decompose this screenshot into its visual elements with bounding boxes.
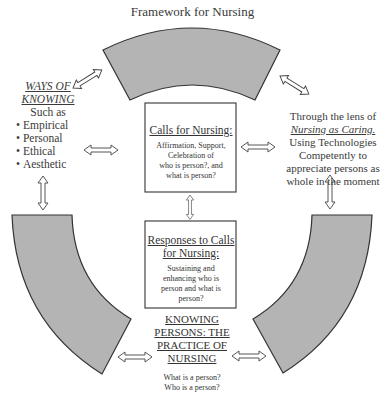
responses-body-line: person and what is [146,284,236,294]
responses-text: Responses to Calls for Nursing: Sustaini… [146,234,236,304]
calls-title: Calls for Nursing: [146,124,236,137]
knowing-persons-heading: KNOWING PERSONS: THE PRACTICE OF NURSING [140,313,244,365]
arrow-wok-to-left-arc-icon [38,176,48,210]
knowing-persons-line: NURSING [140,352,244,365]
left-arc-segment [12,215,131,374]
ways-of-knowing-intro: Such as [4,106,92,119]
ways-of-knowing-heading-2: KNOWING [4,93,92,106]
lens-line-6: whole in the moment [283,175,383,188]
responses-body-line: Sustaining and [146,264,236,274]
calls-body-line: Affirmation, Support, [146,141,236,151]
arrow-top-right-icon [277,72,311,98]
ways-of-knowing-heading-1: WAYS OF [4,80,92,93]
calls-body: Affirmation, Support, Celebration of who… [146,141,236,181]
knowing-persons-line: KNOWING [140,313,244,326]
responses-title-1: Responses to Calls [146,234,236,247]
top-arc-segment [103,28,280,100]
knowing-persons-line: PRACTICE OF [140,339,244,352]
responses-body-line: person? [146,294,236,304]
responses-title-2: for Nursing: [146,247,236,260]
calls-for-nursing-text: Calls for Nursing: Affirmation, Support,… [146,124,236,181]
lens-line-1: Through the lens of [283,110,383,123]
lens-line-5: appreciate persons as [283,162,383,175]
knowing-persons-line: PERSONS: THE [140,326,244,339]
responses-body-line: enhancing who is [146,274,236,284]
ways-of-knowing: WAYS OF KNOWING Such as Empirical Person… [4,80,92,171]
list-item: Aesthetic [16,158,92,171]
nursing-as-caring-lens: Through the lens of Nursing as Caring. U… [283,110,383,188]
right-arc-segment [253,215,372,373]
diagram-title: Framework for Nursing [0,4,385,20]
lens-emphasis: Nursing as Caring. [283,123,383,136]
arrow-calls-to-responses-icon [186,195,193,219]
knowing-persons-questions: What is a person? Who is a person? [140,373,244,393]
list-item: Ethical [16,145,92,158]
list-item: Personal [16,132,92,145]
responses-body: Sustaining and enhancing who is person a… [146,264,236,304]
calls-body-line: who is person?, and [146,161,236,171]
lens-line-4: Competently to [283,149,383,162]
question-line: Who is a person? [140,383,244,393]
arrow-calls-to-right-icon [241,142,275,152]
lens-line-3: Using Technologies [283,136,383,149]
question-line: What is a person? [140,373,244,383]
ways-of-knowing-list: Empirical Personal Ethical Aesthetic [4,119,92,171]
calls-body-line: what is person? [146,171,236,181]
calls-body-line: Celebration of [146,151,236,161]
list-item: Empirical [16,119,92,132]
